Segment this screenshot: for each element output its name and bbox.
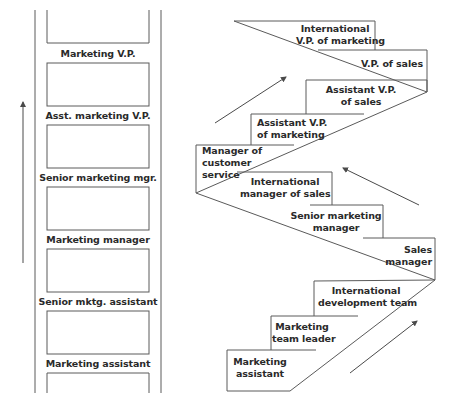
ladder-label: Marketing assistant	[35, 358, 161, 370]
ladder-label: Senior mktg. assistant	[35, 296, 161, 308]
step-label: Internationaldevelopment team	[318, 285, 414, 309]
ladder-label: Asst. marketing V.P.	[35, 110, 161, 122]
step-label: InternationalV.P. of marketing	[296, 23, 374, 47]
ladder-rung-box	[47, 10, 149, 43]
ladder-rung-box	[47, 311, 149, 354]
step-label: Assistant V.P.of sales	[316, 84, 406, 108]
step-label: Salesmanager	[360, 244, 432, 268]
up-left-arrow-icon	[343, 168, 419, 205]
ladder-rung-box	[47, 187, 149, 230]
step-label: V.P. of sales	[350, 58, 423, 70]
ladder-label: Senior marketing mgr.	[35, 172, 161, 184]
ladder-rung-box	[47, 125, 149, 168]
ladder-label: Marketing V.P.	[35, 48, 161, 60]
step-label: Marketingteam leader	[272, 321, 332, 345]
ladder-label: Marketing manager	[35, 234, 161, 246]
career-ladder	[35, 10, 161, 393]
ladder-rung-box	[47, 373, 149, 393]
step-label: Senior marketingmanager	[290, 210, 382, 234]
step-label: Marketingassistant	[230, 356, 290, 380]
up-right-arrow-icon	[350, 321, 417, 373]
step-label: Internationalmanager of sales	[240, 176, 330, 200]
step-label: Assistant V.P.of marketing	[257, 117, 347, 141]
ladder-rung-box	[47, 63, 149, 106]
ladder-rung-box	[47, 249, 149, 292]
